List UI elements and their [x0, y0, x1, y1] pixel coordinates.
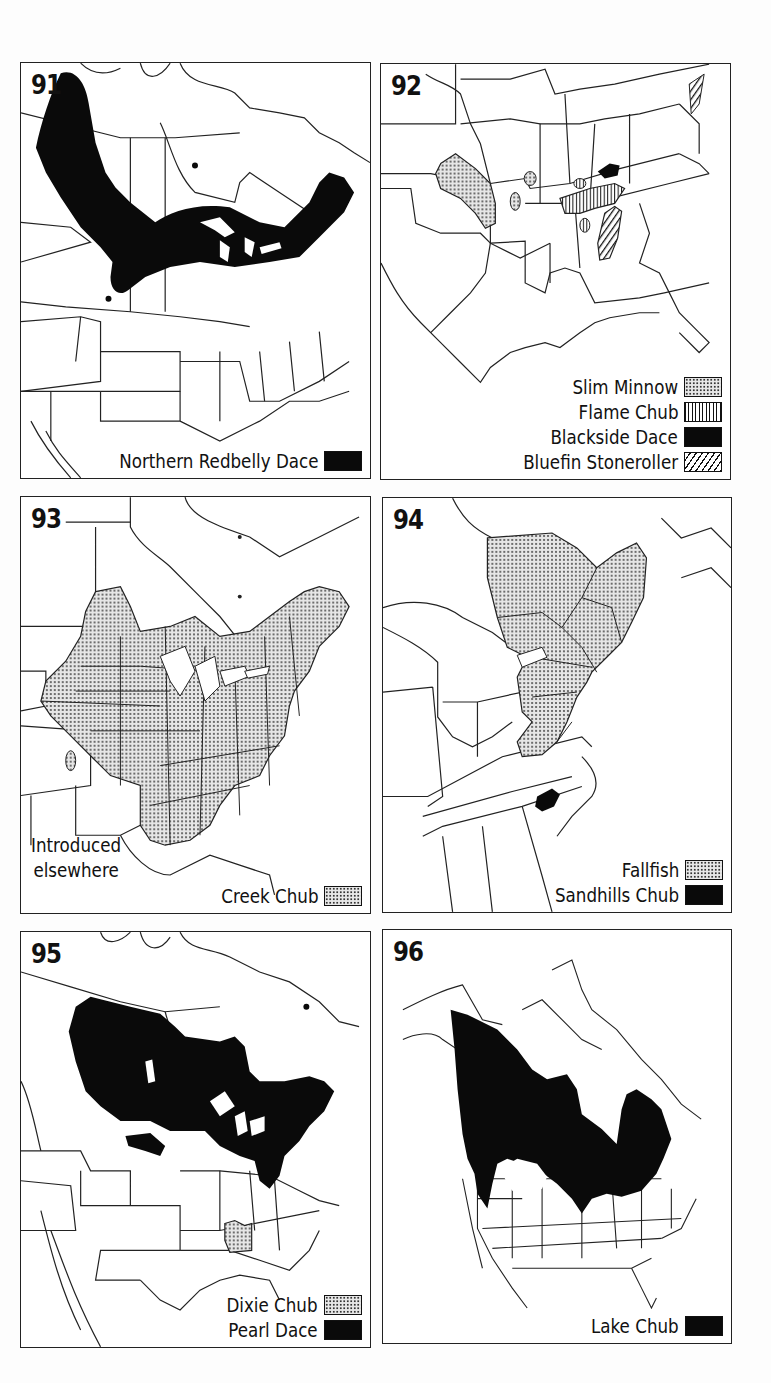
- legend-label: Fallfish: [622, 859, 679, 881]
- legend-item: Sandhills Chub: [538, 884, 723, 906]
- map-legend: Creek Chub: [208, 885, 363, 907]
- map-panel-92: 92 Slim Minnow Flame Chub Blackside Dace…: [380, 63, 731, 480]
- legend-item: Fallfish: [614, 859, 723, 881]
- legend-label: Sandhills Chub: [555, 884, 679, 906]
- map-legend: Lake Chub: [579, 1315, 723, 1337]
- legend-label: Bluefin Stoneroller: [523, 451, 678, 473]
- map-dixie-chub-pearl-dace: [21, 932, 370, 1347]
- legend-item: Northern Redbelly Dace: [92, 450, 363, 472]
- range-sandhills-chub: [535, 789, 560, 812]
- map-lake-chub: [383, 930, 731, 1343]
- solid-swatch-icon: [324, 451, 362, 471]
- range-blackside-dace: [598, 164, 620, 179]
- solid-swatch-icon: [684, 427, 722, 447]
- dotted-swatch-icon: [684, 377, 722, 397]
- range-dixie-chub: [225, 1221, 252, 1253]
- range-lake-chub: [451, 1010, 672, 1214]
- map-legend: Slim Minnow Flame Chub Blackside Dace Bl…: [502, 376, 722, 473]
- map-number: 91: [31, 69, 61, 100]
- legend-item: Bluefin Stoneroller: [502, 451, 722, 473]
- map-legend: Fallfish Sandhills Chub: [538, 859, 723, 906]
- solid-swatch-icon: [685, 885, 723, 905]
- dotted-swatch-icon: [324, 1295, 362, 1315]
- range-bluefin-stoneroller: [598, 206, 622, 260]
- map-number: 93: [31, 503, 61, 534]
- map-panel-91: 91 Northern Redbelly Dace: [20, 62, 371, 479]
- map-number: 94: [393, 504, 423, 535]
- solid-swatch-icon: [324, 1320, 362, 1340]
- map-northern-redbelly-dace: [21, 63, 370, 478]
- dotted-swatch-icon: [324, 886, 362, 906]
- legend-item: Flame Chub: [565, 401, 723, 423]
- map-number: 96: [393, 936, 423, 967]
- legend-label: Pearl Dace: [229, 1319, 318, 1341]
- map-panel-96: 96 Lake Chub: [382, 929, 732, 1344]
- legend-label: Lake Chub: [591, 1315, 679, 1337]
- legend-label: Slim Minnow: [572, 376, 678, 398]
- map-panel-95: 95 Dixie Chub Pearl Dace: [20, 931, 371, 1348]
- legend-label: Dixie Chub: [227, 1294, 318, 1316]
- diagonal-lines-swatch-icon: [684, 452, 722, 472]
- legend-label: Northern Redbelly Dace: [119, 450, 318, 472]
- solid-swatch-icon: [685, 1316, 723, 1336]
- map-panel-93: 93 Introduced elsewhere Creek Chub: [20, 496, 371, 914]
- introduced-note: Introduced elsewhere: [31, 833, 121, 883]
- legend-label: Blackside Dace: [551, 426, 678, 448]
- map-panel-94: 94 Fallfish Sandhills Chub: [382, 497, 732, 913]
- note-line-1: Introduced: [31, 833, 121, 858]
- range-slim-minnow: [436, 154, 496, 229]
- dotted-swatch-icon: [685, 860, 723, 880]
- map-legend: Dixie Chub Pearl Dace: [214, 1294, 362, 1341]
- legend-item: Creek Chub: [208, 885, 363, 907]
- note-line-2: elsewhere: [31, 858, 121, 883]
- map-legend: Northern Redbelly Dace: [92, 450, 363, 472]
- range-northern-redbelly-dace: [36, 72, 354, 293]
- legend-item: Lake Chub: [579, 1315, 723, 1337]
- vertical-lines-swatch-icon: [684, 402, 722, 422]
- legend-item: Blackside Dace: [533, 426, 722, 448]
- legend-item: Dixie Chub: [214, 1294, 362, 1316]
- map-number: 92: [391, 70, 421, 101]
- range-creek-chub: [41, 587, 349, 846]
- legend-label: Flame Chub: [578, 401, 678, 423]
- map-number: 95: [31, 938, 61, 969]
- legend-item: Pearl Dace: [216, 1319, 362, 1341]
- legend-label: Creek Chub: [221, 885, 318, 907]
- map-fallfish-sandhills: [383, 498, 731, 912]
- legend-item: Slim Minnow: [558, 376, 722, 398]
- range-pearl-dace: [69, 997, 334, 1189]
